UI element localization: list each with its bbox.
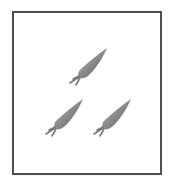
carrot-icon	[89, 97, 133, 137]
carrot-icon	[65, 46, 109, 86]
picture-frame	[12, 11, 162, 175]
carrot-icon	[41, 97, 85, 137]
